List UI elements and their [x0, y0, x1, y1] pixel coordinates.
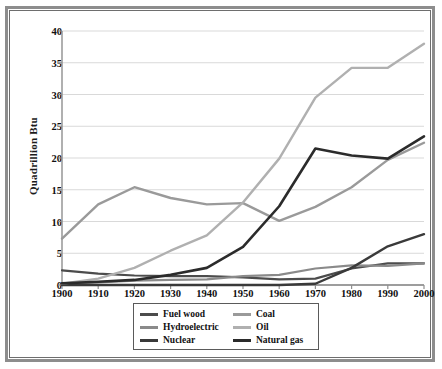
x-tick-label: 1960 [269, 288, 290, 299]
legend-item-oil[interactable]: Oil [233, 323, 326, 333]
x-tick-label: 1990 [377, 288, 398, 299]
x-tick-label: 1920 [124, 288, 145, 299]
legend-label: Hydroelectric [163, 323, 219, 333]
legend-item-fuel-wood[interactable]: Fuel wood [140, 310, 233, 320]
x-tick-label: 1930 [160, 288, 181, 299]
x-tick-label: 1970 [305, 288, 326, 299]
legend-item-nuclear[interactable]: Nuclear [140, 336, 233, 346]
x-tick-label: 1900 [52, 288, 73, 299]
legend-item-natural-gas[interactable]: Natural gas [233, 336, 326, 346]
legend-item-coal[interactable]: Coal [233, 310, 326, 320]
x-tick-label: 1980 [341, 288, 362, 299]
legend-label: Oil [256, 323, 269, 333]
legend-swatch-icon [233, 326, 251, 329]
x-tick-label: 2000 [414, 288, 435, 299]
x-tick-label: 1940 [196, 288, 217, 299]
legend-swatch-icon [233, 339, 251, 342]
chart-legend: Fuel woodCoalHydroelectricOilNuclearNatu… [133, 303, 319, 350]
legend-swatch-icon [233, 313, 251, 316]
legend-item-hydroelectric[interactable]: Hydroelectric [140, 323, 233, 333]
legend-label: Nuclear [163, 336, 195, 346]
x-axis-ticks: 1900191019201930194019501960197019801990… [0, 285, 442, 299]
legend-swatch-icon [140, 313, 158, 316]
x-tick-label: 1950 [233, 288, 254, 299]
figure: Quadrillion Btu 0510152025303540 1900191… [0, 0, 442, 369]
legend-label: Fuel wood [163, 310, 205, 320]
x-tick-label: 1910 [88, 288, 109, 299]
legend-label: Natural gas [256, 336, 303, 346]
legend-swatch-icon [140, 339, 158, 342]
legend-label: Coal [256, 310, 275, 320]
legend-swatch-icon [140, 326, 158, 329]
